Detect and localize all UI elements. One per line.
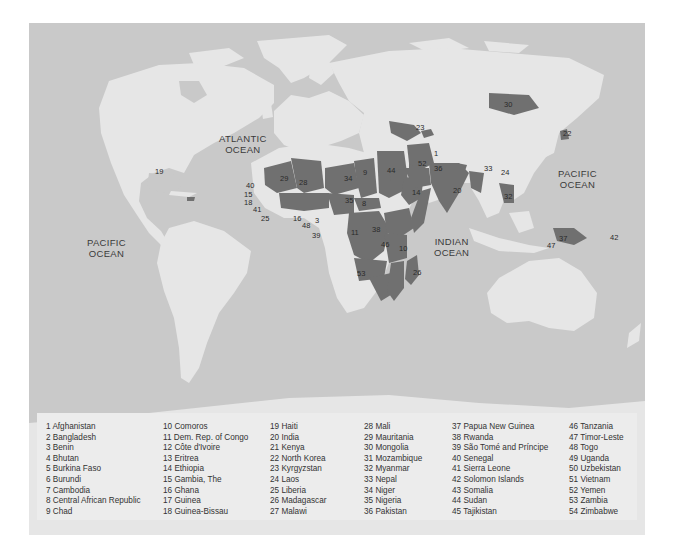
legend-item: 17 Guinea — [163, 496, 248, 507]
legend-item: 6 Burundi — [46, 475, 141, 486]
svg-text:16: 16 — [293, 214, 301, 223]
legend-item: 7 Cambodia — [46, 486, 141, 497]
legend-item: 38 Rwanda — [452, 433, 548, 444]
legend-item: 32 Myanmar — [364, 464, 422, 475]
legend-item: 49 Uganda — [569, 454, 624, 465]
legend-item: 26 Madagascar — [270, 496, 326, 507]
legend-item: 4 Bhutan — [46, 454, 141, 465]
svg-text:34: 34 — [344, 174, 352, 183]
legend-item: 5 Burkina Faso — [46, 464, 141, 475]
svg-text:29: 29 — [280, 174, 288, 183]
svg-text:30: 30 — [504, 100, 512, 109]
svg-text:46: 46 — [381, 240, 389, 249]
legend-column-6: 46 Tanzania 47 Timor-Leste 48 Togo 49 Ug… — [569, 422, 624, 517]
legend-item: 36 Pakistan — [364, 507, 422, 518]
legend-item: 16 Ghana — [163, 486, 248, 497]
legend-item: 51 Vietnam — [569, 475, 624, 486]
legend-item: 52 Yemen — [569, 486, 624, 497]
svg-text:8: 8 — [362, 199, 366, 208]
legend-item: 37 Papua New Guinea — [452, 422, 548, 433]
svg-text:32: 32 — [504, 192, 512, 201]
legend-item: 42 Solomon Islands — [452, 475, 548, 486]
legend-item: 50 Uzbekistan — [569, 464, 624, 475]
legend-item: 13 Eritrea — [163, 454, 248, 465]
svg-text:14: 14 — [412, 188, 420, 197]
svg-text:42: 42 — [610, 233, 618, 242]
svg-text:3: 3 — [315, 216, 319, 225]
svg-text:20: 20 — [453, 186, 461, 195]
legend-item: 27 Malawi — [270, 507, 326, 518]
ocean-label-pacific-east: PACIFICOCEAN — [558, 168, 597, 190]
svg-text:40: 40 — [246, 181, 254, 190]
ocean-label-pacific-west: PACIFICOCEAN — [87, 237, 126, 259]
legend-item: 11 Dem. Rep. of Congo — [163, 433, 248, 444]
legend-item: 21 Kenya — [270, 443, 326, 454]
legend-column-2: 10 Comoros 11 Dem. Rep. of Congo 12 Côte… — [163, 422, 248, 517]
ocean-label-atlantic: ATLANTICOCEAN — [219, 133, 267, 155]
svg-text:10: 10 — [399, 244, 407, 253]
svg-text:1: 1 — [434, 149, 438, 158]
svg-text:11: 11 — [351, 228, 359, 237]
legend-item: 24 Laos — [270, 475, 326, 486]
legend-item: 19 Haiti — [270, 422, 326, 433]
legend-item: 2 Bangladesh — [46, 433, 141, 444]
svg-text:18: 18 — [244, 198, 252, 207]
legend-item: 3 Benin — [46, 443, 141, 454]
legend-item: 47 Timor-Leste — [569, 433, 624, 444]
svg-text:22: 22 — [563, 129, 571, 138]
svg-text:47: 47 — [547, 241, 555, 250]
legend-item: 28 Mali — [364, 422, 422, 433]
svg-text:36: 36 — [434, 164, 442, 173]
svg-text:53: 53 — [357, 269, 365, 278]
legend-item: 39 São Tomé and Príncipe — [452, 443, 548, 454]
legend-item: 33 Nepal — [364, 475, 422, 486]
legend-item: 10 Comoros — [163, 422, 248, 433]
legend-item: 29 Mauritania — [364, 433, 422, 444]
svg-text:52: 52 — [418, 159, 426, 168]
svg-text:19: 19 — [155, 167, 163, 176]
svg-text:28: 28 — [299, 178, 307, 187]
legend-item: 40 Senegal — [452, 454, 548, 465]
ocean-label-indian: INDIANOCEAN — [434, 236, 469, 258]
legend-item: 14 Ethiopia — [163, 464, 248, 475]
legend-item: 34 Niger — [364, 486, 422, 497]
svg-text:44: 44 — [387, 166, 395, 175]
legend-item: 23 Kyrgyzstan — [270, 464, 326, 475]
legend-column-3: 19 Haiti 20 India 21 Kenya 22 North Kore… — [270, 422, 326, 517]
legend-item: 54 Zimbabwe — [569, 507, 624, 518]
legend-item: 1 Afghanistan — [46, 422, 141, 433]
svg-text:23: 23 — [416, 123, 424, 132]
legend-item: 41 Sierra Leone — [452, 464, 548, 475]
legend-item: 25 Liberia — [270, 486, 326, 497]
world-map: 19 29 28 34 9 44 52 14 35 8 11 38 46 10 … — [29, 23, 645, 535]
legend-item: 30 Mongolia — [364, 443, 422, 454]
svg-text:35: 35 — [345, 196, 353, 205]
svg-text:24: 24 — [501, 168, 509, 177]
legend-item: 48 Togo — [569, 443, 624, 454]
legend-item: 53 Zambia — [569, 496, 624, 507]
svg-text:38: 38 — [372, 225, 380, 234]
legend-item: 12 Côte d'Ivoire — [163, 443, 248, 454]
legend-column-1: 1 Afghanistan 2 Bangladesh 3 Benin 4 Bhu… — [46, 422, 141, 517]
svg-text:25: 25 — [261, 214, 269, 223]
svg-text:33: 33 — [484, 164, 492, 173]
legend-item: 9 Chad — [46, 507, 141, 518]
legend-item: 35 Nigeria — [364, 496, 422, 507]
legend-item: 46 Tanzania — [569, 422, 624, 433]
svg-text:48: 48 — [302, 221, 310, 230]
svg-text:26: 26 — [413, 268, 421, 277]
legend-item: 43 Somalia — [452, 486, 548, 497]
legend-item: 22 North Korea — [270, 454, 326, 465]
svg-text:37: 37 — [559, 234, 567, 243]
legend-item: 45 Tajikistan — [452, 507, 548, 518]
legend-item: 20 India — [270, 433, 326, 444]
legend-item: 8 Central African Republic — [46, 496, 141, 507]
svg-text:9: 9 — [363, 168, 367, 177]
legend-item: 44 Sudan — [452, 496, 548, 507]
legend-item: 15 Gambia, The — [163, 475, 248, 486]
country-legend: 1 Afghanistan 2 Bangladesh 3 Benin 4 Bhu… — [37, 413, 637, 520]
svg-text:41: 41 — [253, 205, 261, 214]
legend-item: 31 Mozambique — [364, 454, 422, 465]
legend-item: 18 Guinea-Bissau — [163, 507, 248, 518]
svg-text:39: 39 — [312, 231, 320, 240]
